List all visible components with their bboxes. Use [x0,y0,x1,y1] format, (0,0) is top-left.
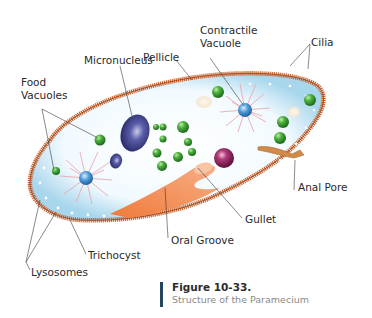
label-anal-pore: Anal Pore [298,181,347,194]
label-oral-groove: Oral Groove [171,234,234,247]
label-trichocyst: Trichocyst [88,249,141,262]
label-contractile-vacuole: Contractile Vacuole [200,24,257,50]
label-cilia: Cilia [311,36,334,49]
macronucleus [214,148,234,168]
figure-number: Figure 10-33. [172,281,251,293]
label-gullet: Gullet [245,213,276,226]
figure-title: Structure of the Paramecium [172,294,309,305]
caption-accent-bar [160,282,163,307]
label-lysosomes: Lysosomes [31,266,88,279]
label-food-vacuoles: Food Vacuoles [21,76,68,102]
label-micronucleus: Micronucleus [84,54,153,67]
